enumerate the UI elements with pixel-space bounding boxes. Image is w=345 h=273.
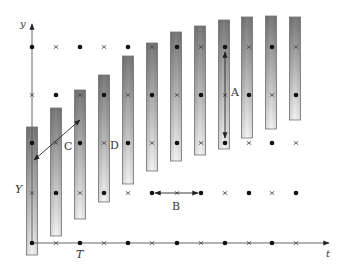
y-axis-label: y: [19, 18, 26, 29]
bar-8: [195, 26, 206, 155]
cross-marker: [102, 45, 106, 49]
dot-marker: [30, 241, 35, 246]
dot-marker: [150, 93, 155, 98]
dot-marker: [175, 141, 180, 146]
cross-marker: [126, 191, 130, 195]
dot-marker: [102, 93, 107, 98]
bar-3: [75, 90, 86, 219]
dot-marker: [270, 141, 275, 146]
dot-marker: [126, 45, 131, 50]
bar-10: [242, 17, 253, 138]
bar-2: [51, 108, 62, 236]
dot-marker: [126, 241, 131, 246]
dot-marker: [199, 191, 204, 196]
dot-marker: [30, 141, 35, 146]
dot-marker: [223, 241, 228, 246]
dot-marker: [78, 141, 83, 146]
cross-marker: [247, 141, 251, 145]
label-a: A: [230, 86, 240, 99]
bar-12: [290, 17, 301, 120]
bar-5: [123, 56, 134, 184]
label-b: B: [172, 200, 180, 213]
dot-marker: [102, 191, 107, 196]
dot-marker: [175, 45, 180, 50]
label-t: T: [76, 248, 85, 261]
dot-marker: [247, 191, 252, 196]
dot-marker: [126, 141, 131, 146]
sampling-diagram: yt ABCDYT: [0, 0, 345, 273]
dot-marker: [78, 241, 83, 246]
label-c: C: [64, 140, 72, 153]
dot-marker: [54, 191, 59, 196]
dot-marker: [270, 241, 275, 246]
cross-marker: [294, 141, 298, 145]
dot-marker: [150, 191, 155, 196]
cross-marker: [54, 45, 58, 49]
cross-marker: [223, 191, 227, 195]
dot-marker: [294, 93, 299, 98]
dot-marker: [78, 45, 83, 50]
bar-9: [219, 20, 230, 149]
dot-marker: [270, 45, 275, 50]
bars-layer: [27, 16, 301, 255]
dot-marker: [247, 93, 252, 98]
dot-marker: [199, 93, 204, 98]
dot-marker: [294, 191, 299, 196]
t-axis-label: t: [326, 248, 331, 259]
dot-marker: [223, 45, 228, 50]
dot-marker: [30, 45, 35, 50]
dot-marker: [54, 93, 59, 98]
diagram-figure: yt ABCDYT: [0, 0, 345, 273]
label-d: D: [110, 139, 119, 152]
bar-11: [266, 16, 277, 129]
label-y: Y: [15, 183, 24, 196]
bar-6: [147, 43, 158, 171]
dot-marker: [175, 241, 180, 246]
cross-marker: [270, 191, 274, 195]
dot-marker: [223, 141, 228, 146]
